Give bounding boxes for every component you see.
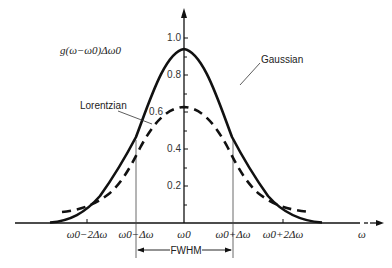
arrow-left-icon xyxy=(137,248,144,253)
x-tick-minus-dw: ω0−Δω xyxy=(119,228,154,240)
x-axis-label: ω xyxy=(358,228,366,240)
y-axis-arrow-icon xyxy=(181,8,187,18)
gaussian-label: Gaussian xyxy=(261,54,303,65)
y-axis xyxy=(181,8,188,223)
x-axis-arrow-icon xyxy=(376,220,384,226)
y-axis-label: g(ω−ω0)Δω0 xyxy=(60,44,122,57)
x-axis xyxy=(15,219,384,226)
lorentzian-label: Lorentzian xyxy=(80,100,127,111)
x-tick-plus-2dw: ω0+2Δω xyxy=(263,228,304,240)
x-tick-plus-dw: ω0+Δω xyxy=(216,228,251,240)
fwhm-label: FWHM xyxy=(170,245,201,256)
arrow-right-icon xyxy=(225,248,232,253)
y-tick-0.6: 0.6 xyxy=(149,106,163,117)
y-tick-0.2: 0.2 xyxy=(167,180,181,191)
x-tick-minus-2dw: ω0−2Δω xyxy=(67,228,108,240)
y-tick-0.4: 0.4 xyxy=(167,143,181,154)
fwhm-arrow: FWHM xyxy=(137,245,232,256)
lineshape-diagram: 1.0 0.8 0.6 0.4 0.2 g(ω−ω0)Δω0 Gaussian … xyxy=(0,0,392,268)
x-tick-omega0: ω0 xyxy=(177,228,191,240)
y-tick-1.0: 1.0 xyxy=(167,32,181,43)
y-tick-0.8: 0.8 xyxy=(167,69,181,80)
lorentzian-leader xyxy=(118,111,152,124)
gaussian-leader xyxy=(240,63,260,85)
